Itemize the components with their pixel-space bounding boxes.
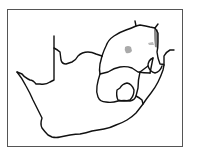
border-north-central (54, 48, 102, 64)
border-internal-north (100, 56, 151, 74)
border-northern-cape-north (17, 36, 54, 84)
border-eastern-cape (136, 96, 143, 104)
highlight-small-patch (148, 42, 154, 45)
highlight-central-patch (125, 46, 132, 53)
border-east (155, 28, 174, 65)
border-northeast-spur (135, 21, 158, 28)
border-lesotho (117, 83, 134, 101)
south-africa-map (0, 0, 199, 160)
border-internal-gauteng-east (140, 58, 153, 73)
